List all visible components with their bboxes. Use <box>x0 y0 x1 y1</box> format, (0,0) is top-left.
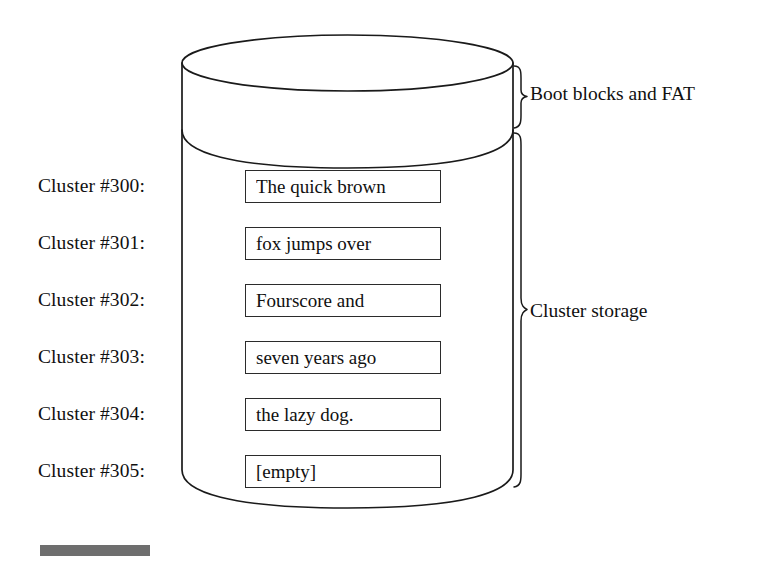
cluster-box-302: Fourscore and <box>245 284 441 317</box>
cluster-label-302: Cluster #302: <box>38 283 188 317</box>
cluster-box-304: the lazy dog. <box>245 398 441 431</box>
annotation-cluster-storage: Cluster storage <box>530 300 648 322</box>
scan-artifact-bar <box>40 545 150 556</box>
cluster-box-303: seven years ago <box>245 341 441 374</box>
annotation-boot-blocks-and-fat: Boot blocks and FAT <box>530 83 695 105</box>
cluster-label-305: Cluster #305: <box>38 454 188 488</box>
cluster-label-304: Cluster #304: <box>38 397 188 431</box>
cluster-content-302: Fourscore and <box>256 285 436 316</box>
cluster-content-305: [empty] <box>256 456 436 487</box>
cluster-content-304: the lazy dog. <box>256 399 436 430</box>
cluster-box-300: The quick brown <box>245 170 441 203</box>
cluster-content-303: seven years ago <box>256 342 436 373</box>
boot-fat-brace <box>514 66 527 128</box>
cluster-box-305: [empty] <box>245 455 441 488</box>
cluster-content-301: fox jumps over <box>256 228 436 259</box>
cluster-label-301: Cluster #301: <box>38 226 188 260</box>
disk-cluster-diagram: Cluster #300: Cluster #301: Cluster #302… <box>0 0 766 562</box>
cylinder-top-ellipse <box>182 35 513 91</box>
cluster-content-300: The quick brown <box>256 171 436 202</box>
cluster-box-301: fox jumps over <box>245 227 441 260</box>
cluster-label-300: Cluster #300: <box>38 169 188 203</box>
cluster-label-303: Cluster #303: <box>38 340 188 374</box>
cluster-storage-brace <box>514 133 527 487</box>
